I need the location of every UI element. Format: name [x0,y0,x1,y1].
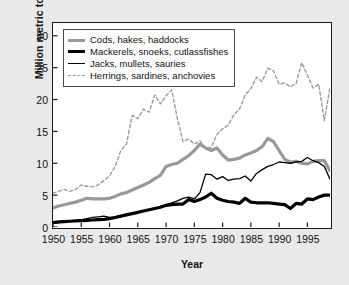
legend-item: Jacks, mullets, sauries [68,58,228,70]
legend-item: Herrings, sardines, anchovies [68,70,228,82]
y-tick-label: 0 [2,222,48,234]
y-tick-label: 25 [2,62,48,74]
y-tick-label: 30 [2,30,48,42]
x-axis-title: Year [52,258,332,270]
y-axis-tick-labels: 051015202530 [0,22,48,229]
y-tick-label: 20 [2,94,48,106]
x-tick-label: 1995 [288,233,328,245]
y-tick-label: 15 [2,126,48,138]
legend-item-label: Jacks, mullets, sauries [90,58,186,70]
legend-line-swatch [68,47,85,57]
y-tick-label: 5 [2,190,48,202]
chart-figure: Million metric tons 051015202530 Cods, h… [0,0,349,285]
legend-line-swatch [68,35,85,45]
y-tick-label: 10 [2,158,48,170]
chart-legend: Cods, hakes, haddocksMackerels, snoeks, … [63,29,235,87]
plot-area: Cods, hakes, haddocksMackerels, snoeks, … [52,22,332,229]
legend-item: Cods, hakes, haddocks [68,34,228,46]
x-axis-tick-marks [53,223,307,228]
legend-item-label: Cods, hakes, haddocks [90,34,189,46]
legend-item: Mackerels, snoeks, cutlassfishes [68,46,228,58]
y-axis-tick-marks [53,36,58,227]
legend-item-label: Herrings, sardines, anchovies [90,70,215,82]
legend-item-label: Mackerels, snoeks, cutlassfishes [90,46,228,58]
legend-line-swatch [68,71,85,81]
legend-line-swatch [68,59,85,69]
series-line [53,158,330,224]
